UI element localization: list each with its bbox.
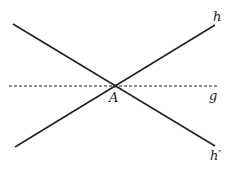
label-h-prime: h′ bbox=[210, 148, 221, 163]
label-g: g bbox=[209, 88, 217, 103]
geometry-diagram: h g h′ A bbox=[0, 0, 231, 169]
label-h: h bbox=[213, 9, 221, 24]
point-a-marker bbox=[113, 84, 116, 87]
label-point-a: A bbox=[108, 90, 118, 105]
